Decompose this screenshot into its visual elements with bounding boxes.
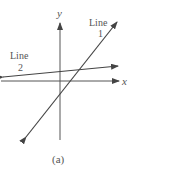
line-1 (26, 22, 117, 137)
line-1-label-num: 1 (98, 28, 103, 39)
line-2-label-word: Line (10, 50, 29, 61)
x-axis-label: x (121, 75, 127, 87)
line-1-label-word: Line (89, 17, 108, 28)
figure-caption: (a) (52, 153, 65, 166)
y-axis-label: y (56, 7, 62, 19)
line-2-label-num: 2 (18, 62, 23, 73)
diagram-canvas: y x Line 1 Line 2 (a) (0, 0, 181, 173)
